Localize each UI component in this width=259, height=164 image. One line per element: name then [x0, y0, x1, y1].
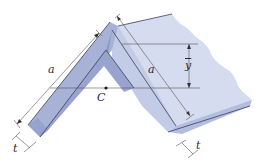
left-leg-outer-face	[28, 22, 118, 137]
label-y-bar: y	[185, 60, 191, 71]
label-a-left: a	[48, 64, 55, 75]
label-t-right: t	[196, 140, 200, 151]
label-t-left: t	[13, 143, 17, 154]
diagram-canvas	[0, 0, 259, 164]
angle-section-diagram: a a C y t t	[0, 0, 259, 164]
centroid-dot	[104, 86, 107, 89]
label-centroid-c: C	[97, 92, 105, 103]
label-a-right: a	[148, 64, 155, 75]
